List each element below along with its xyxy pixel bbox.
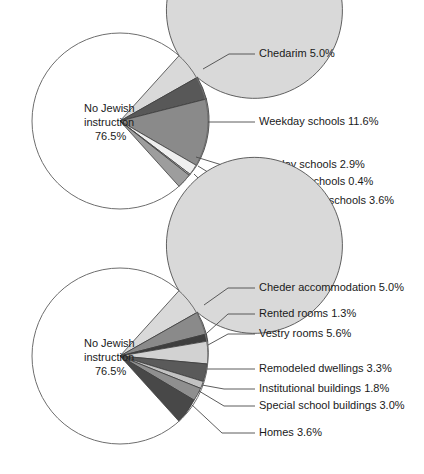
leader-institutional-buildings [202,385,255,389]
callout-vestry-rooms: Vestry rooms 5.6% [259,327,352,339]
callout-remodeled-dwellings: Remodeled dwellings 3.3% [259,362,392,374]
bottom-center-line2: instruction [84,351,134,363]
callout-chedarim: Chedarim 5.0% [259,47,335,59]
callout-institutional-buildings: Institutional buildings 1.8% [259,382,389,394]
bottom-center-line1: No Jewish [84,337,135,349]
charts-canvas: No Jewish instruction 76.5% Chedarim 5.0… [0,0,424,474]
callout-homes: Homes 3.6% [259,426,322,438]
callout-weekday-schools: Weekday schools 11.6% [259,115,379,127]
top-center-line2: instruction [84,116,134,128]
callout-rented-rooms: Rented rooms 1.3% [259,307,356,319]
top-pie-center-label: No Jewish instruction 76.5% [84,102,135,142]
top-center-line1: No Jewish [84,102,135,114]
bottom-pie-center-label: No Jewish instruction 76.5% [84,337,135,377]
leader-homes [191,404,255,433]
top-center-line3: 76.5% [95,130,126,142]
callout-cheder-accommodation: Cheder accommodation 5.0% [259,281,404,293]
bottom-center-line3: 76.5% [95,365,126,377]
leader-special-school-buildings [199,391,255,406]
pie-charts-figure: No Jewish instruction 76.5% Chedarim 5.0… [0,0,424,474]
leader-vestry-rooms [208,334,255,345]
callout-special-school-buildings: Special school buildings 3.0% [259,399,405,411]
